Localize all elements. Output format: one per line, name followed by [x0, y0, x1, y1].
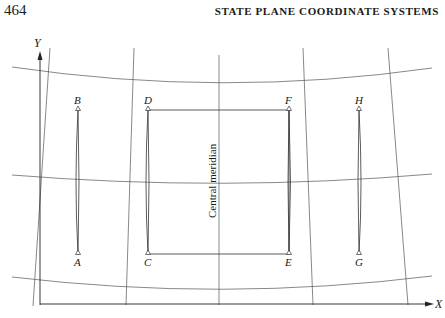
- parallel-bottom: [12, 276, 432, 289]
- point-a-triangle-icon: [76, 250, 81, 255]
- point-c-label: C: [144, 256, 152, 268]
- point-e-label: E: [284, 256, 292, 268]
- line-b-a: [76, 110, 79, 254]
- point-h-triangle-icon: [357, 106, 362, 111]
- grid-rectangle-dfec: [148, 110, 289, 254]
- parallel-top: [12, 67, 432, 83]
- point-a-label: A: [73, 256, 81, 268]
- y-axis-arrow-icon: [38, 51, 43, 60]
- state-plane-figure: Y X B A D C F E H G Central meridian: [0, 0, 445, 318]
- meridian-right-inner: [303, 48, 313, 305]
- point-d-label: D: [143, 94, 152, 106]
- meridian-left-inner: [126, 48, 134, 305]
- point-c-triangle-icon: [146, 250, 151, 255]
- x-axis-arrow-icon: [425, 302, 434, 307]
- point-g-label: G: [355, 256, 363, 268]
- line-h-g: [358, 110, 361, 254]
- point-b-triangle-icon: [76, 106, 81, 111]
- point-b-label: B: [74, 94, 81, 106]
- central-meridian-label: Central meridian: [206, 143, 218, 218]
- x-axis-label: X: [434, 297, 443, 311]
- point-e-triangle-icon: [287, 250, 292, 255]
- point-h-label: H: [354, 94, 364, 106]
- point-f-label: F: [284, 94, 292, 106]
- point-g-triangle-icon: [357, 250, 362, 255]
- parallel-middle: [12, 174, 432, 183]
- y-axis-label: Y: [34, 36, 42, 50]
- point-f-triangle-icon: [287, 106, 292, 111]
- point-d-triangle-icon: [146, 106, 151, 111]
